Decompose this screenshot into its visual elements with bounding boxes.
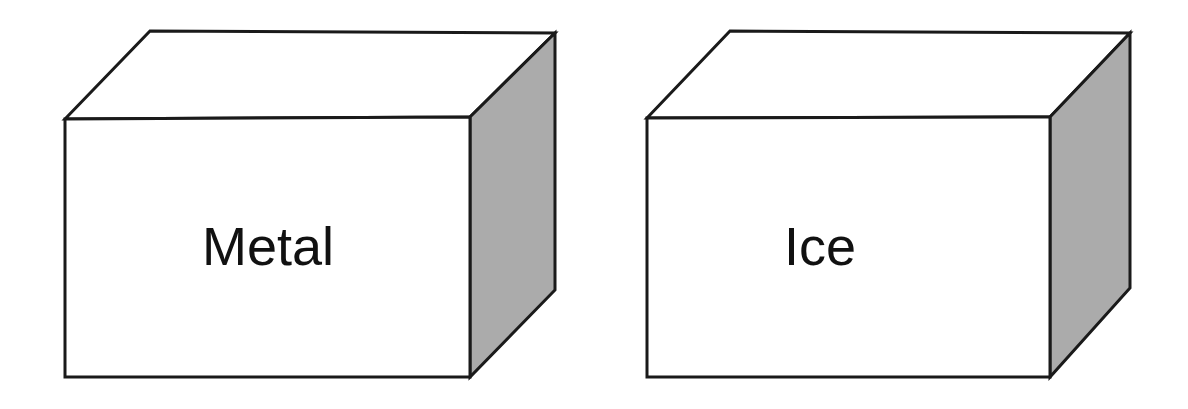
- figure-canvas: Metal Ice: [0, 0, 1188, 409]
- ice-block-label: Ice: [784, 216, 856, 276]
- blocks-diagram: Metal Ice: [0, 0, 1188, 409]
- ice-block-top-face: [647, 31, 1130, 118]
- metal-block-label: Metal: [202, 216, 334, 276]
- ice-block[interactable]: Ice: [647, 31, 1130, 377]
- metal-block[interactable]: Metal: [65, 31, 555, 377]
